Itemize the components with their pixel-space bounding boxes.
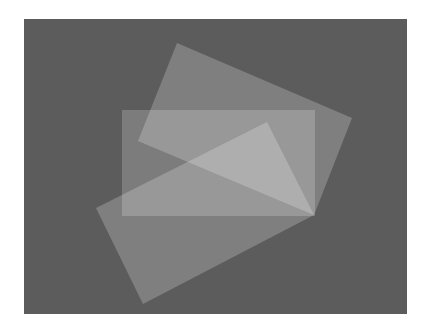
figure-canvas: [0, 0, 429, 334]
overlapping-rectangles-figure: [0, 0, 429, 334]
